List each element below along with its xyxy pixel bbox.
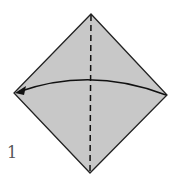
diagram-svg <box>0 0 180 185</box>
step-number: 1 <box>7 143 17 162</box>
origami-diagram: 1 <box>0 0 180 185</box>
